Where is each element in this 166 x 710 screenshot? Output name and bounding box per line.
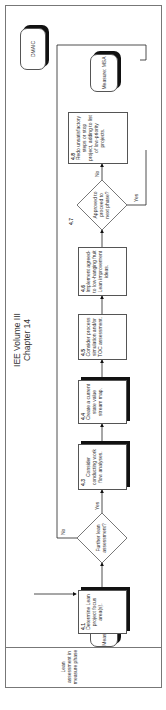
step-text: Determine Lean project focus area(s). bbox=[85, 594, 103, 630]
decision-2-yes-label: Yes bbox=[133, 194, 139, 202]
dmaic-label: DMAIC bbox=[30, 41, 36, 57]
step-text: Redo unsatisfactory steps or stop projec… bbox=[75, 115, 105, 161]
decision-1-no-label: No bbox=[60, 529, 66, 535]
decision-1-yes-label: Yes bbox=[94, 502, 100, 510]
step-number: 4.3 bbox=[80, 479, 86, 486]
decision-further-lean-assessment: Further lean assessment? bbox=[77, 513, 127, 563]
step-number: 4.1 bbox=[80, 623, 86, 630]
step-text: Consider process simulation and/or TOC a… bbox=[85, 317, 103, 357]
flowchart-canvas: Lean assessment in measure phase IEE Vol… bbox=[0, 0, 166, 710]
step-4-5: 4.5 Consider process simulation and/or T… bbox=[78, 314, 127, 360]
step-number: 4.6 bbox=[80, 285, 86, 292]
decision-2-no-label: No bbox=[94, 171, 100, 177]
step-text: Implement agreed-to low-hanging fruit Le… bbox=[85, 250, 109, 292]
step-number: 4.8 bbox=[70, 153, 76, 160]
end-terminal-label: Measure: MSA bbox=[101, 56, 107, 89]
end-terminal-measure-msa: Measure: MSA bbox=[90, 54, 118, 92]
decision-text: Approved to proceed to next phase? bbox=[92, 188, 110, 222]
step-4-6: 4.6 Implement agreed-to low-hanging frui… bbox=[78, 247, 127, 296]
step-4-4: 4.4 Create a current state value stream … bbox=[78, 380, 127, 424]
step-number: 4.4 bbox=[80, 413, 86, 420]
step-text: Consider conducting work flow analyses. bbox=[85, 449, 103, 485]
decision-2-number: 4.7 bbox=[68, 218, 74, 225]
step-4-8: 4.8 Redo unsatisfactory steps or stop pr… bbox=[68, 112, 128, 164]
step-4-3: 4.3 Consider conducting work flow analys… bbox=[78, 444, 127, 490]
decision-text: Further lean assessment? bbox=[95, 521, 107, 555]
step-4-1: 4.1 Determine Lean project focus area(s)… bbox=[78, 590, 127, 634]
decision-approved-next-phase: Approved to proceed to next phase? bbox=[77, 180, 127, 230]
dmaic-terminal: DMAIC bbox=[20, 28, 46, 70]
step-number: 4.5 bbox=[80, 349, 86, 356]
step-text: Create a current state value stream map. bbox=[85, 384, 103, 420]
